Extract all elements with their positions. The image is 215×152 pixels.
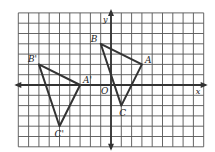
grid-canvas: xyOABCA'B'C' — [0, 0, 215, 152]
y-axis-arrow-down-icon — [108, 144, 114, 151]
x-axis-arrow-left-icon — [14, 82, 21, 88]
vertex-label-a: A — [144, 55, 152, 65]
x-axis-arrow-right-icon — [201, 82, 208, 88]
vertex-label-c: C — [119, 108, 126, 118]
vertex-label-b: B — [90, 34, 98, 44]
x-axis-label: x — [196, 87, 201, 96]
origin-label: O — [101, 86, 109, 96]
vertex-label-b-prime: B' — [27, 54, 37, 64]
vertex-label-a-prime: A' — [82, 75, 92, 85]
y-axis-arrow-up-icon — [108, 9, 114, 16]
vertex-label-c-prime: C' — [55, 129, 64, 139]
y-axis-label: y — [102, 15, 108, 24]
coordinate-grid-diagram: xyOABCA'B'C' — [0, 0, 215, 152]
